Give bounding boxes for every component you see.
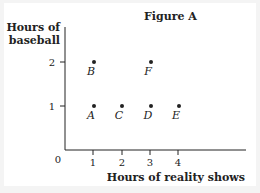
point-F (149, 60, 153, 64)
x-tick-label-1: 1 (90, 157, 96, 168)
point-E (177, 104, 181, 108)
y-axis-label-line1: Hours of (6, 21, 61, 34)
y-tick-label-1: 1 (49, 101, 55, 112)
point-label-E: E (171, 109, 180, 122)
point-B (92, 60, 96, 64)
point-label-D: D (143, 109, 153, 122)
point-D (149, 104, 153, 108)
x-tick-label-2: 2 (119, 157, 125, 168)
point-A (92, 104, 96, 108)
point-label-F: F (143, 65, 152, 78)
x-tick-label-3: 3 (147, 157, 153, 168)
point-C (120, 104, 124, 108)
point-label-A: A (86, 109, 95, 122)
chart-title: Figure A (144, 10, 197, 23)
point-label-B: B (86, 65, 95, 78)
y-tick-label-2: 2 (49, 57, 55, 68)
origin-label: 0 (55, 154, 61, 165)
point-label-C: C (115, 109, 124, 122)
x-tick-label-4: 4 (175, 157, 181, 168)
x-axis-label: Hours of reality shows (107, 171, 245, 184)
scatter-chart: Figure A Hours of baseball 2 1 1 2 3 4 0… (0, 0, 260, 193)
y-axis-label-line2: baseball (9, 34, 60, 47)
